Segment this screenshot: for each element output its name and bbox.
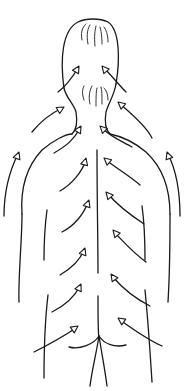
hair-stroke bbox=[83, 86, 85, 100]
arrow-shaft bbox=[120, 104, 152, 138]
arrow-shaft bbox=[114, 232, 146, 262]
direction-arrows bbox=[4, 64, 180, 352]
outline-line bbox=[98, 296, 99, 338]
arrowhead-icon bbox=[164, 151, 173, 160]
hair-stroke bbox=[89, 86, 92, 104]
arrow bbox=[60, 247, 88, 275]
back-diagram bbox=[0, 0, 186, 391]
hair-strokes bbox=[81, 24, 108, 106]
outline-line bbox=[64, 88, 77, 134]
arrow bbox=[62, 199, 92, 232]
arrow bbox=[32, 104, 66, 132]
arrow-shaft bbox=[34, 328, 76, 352]
arrow bbox=[108, 272, 150, 306]
hair-stroke bbox=[87, 25, 90, 44]
hair-stroke bbox=[101, 87, 102, 104]
arrow bbox=[116, 99, 152, 138]
arrow bbox=[103, 190, 144, 224]
arrow bbox=[116, 315, 162, 346]
hair-stroke bbox=[95, 26, 96, 46]
outline-line bbox=[110, 134, 170, 214]
arrow-shaft bbox=[4, 154, 18, 216]
outline-line bbox=[44, 295, 48, 378]
arrowhead-icon bbox=[72, 64, 82, 74]
arrowhead-icon bbox=[13, 151, 22, 160]
arrowhead-icon bbox=[81, 157, 90, 166]
hair-stroke bbox=[104, 27, 108, 42]
arrow bbox=[102, 155, 140, 185]
outline-line bbox=[99, 336, 107, 386]
arrow bbox=[60, 157, 89, 191]
arrow-shaft bbox=[106, 160, 140, 185]
arrow bbox=[52, 283, 84, 312]
arrow-shaft bbox=[112, 276, 150, 306]
hair-stroke bbox=[81, 24, 86, 40]
hair-stroke bbox=[100, 27, 102, 44]
arrow bbox=[99, 64, 126, 92]
arrowhead-icon bbox=[83, 199, 92, 208]
arrowhead-icon bbox=[56, 104, 66, 114]
outline-line bbox=[19, 214, 22, 302]
arrow-shaft bbox=[120, 320, 162, 346]
outline-line bbox=[142, 206, 145, 260]
outline-line bbox=[44, 210, 47, 260]
arrowhead-icon bbox=[75, 283, 84, 292]
hair-stroke bbox=[96, 88, 97, 106]
arrow bbox=[110, 228, 146, 262]
outline-line bbox=[168, 214, 170, 302]
arrow-shaft bbox=[32, 108, 62, 132]
arrow-shaft bbox=[102, 128, 132, 147]
arrow-shaft bbox=[62, 202, 88, 232]
arrow-shaft bbox=[108, 194, 144, 224]
arrowhead-icon bbox=[79, 247, 88, 256]
outline-line bbox=[97, 150, 98, 273]
arrow bbox=[4, 151, 22, 216]
outline-line bbox=[62, 19, 118, 88]
body-outline bbox=[19, 19, 170, 386]
hair-stroke bbox=[104, 88, 108, 100]
